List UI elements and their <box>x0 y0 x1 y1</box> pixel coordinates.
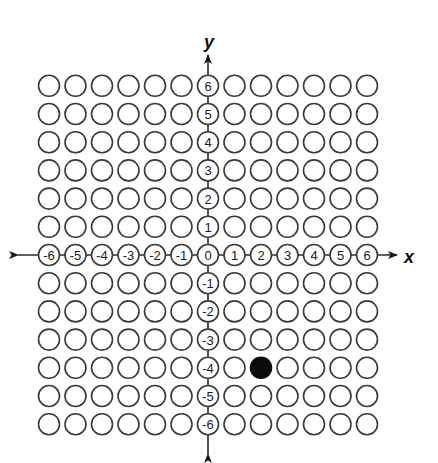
grid-point <box>65 188 86 209</box>
grid-point <box>145 188 166 209</box>
grid-point <box>224 132 245 153</box>
grid-point <box>39 132 60 153</box>
x-tick-label: -6 <box>43 248 55 263</box>
grid-point <box>251 301 272 322</box>
grid-point <box>145 357 166 378</box>
grid-point <box>251 104 272 125</box>
grid-point <box>304 160 325 181</box>
grid-point <box>277 301 298 322</box>
grid-point <box>330 160 351 181</box>
grid-point <box>304 75 325 96</box>
grid-point <box>304 386 325 407</box>
grid-point <box>171 75 192 96</box>
x-tick-label: 1 <box>231 248 238 263</box>
grid-point <box>118 357 139 378</box>
grid-point <box>330 75 351 96</box>
grid-point <box>39 216 60 237</box>
grid-point <box>118 160 139 181</box>
grid-point <box>92 75 113 96</box>
x-tick-label: 5 <box>337 248 344 263</box>
grid-point <box>92 357 113 378</box>
grid-point <box>39 75 60 96</box>
grid-point <box>357 75 378 96</box>
grid-point <box>304 329 325 350</box>
grid-point <box>145 75 166 96</box>
grid-point <box>92 188 113 209</box>
grid-point <box>39 273 60 294</box>
grid-point <box>330 132 351 153</box>
grid-point <box>357 301 378 322</box>
grid-point <box>251 273 272 294</box>
grid-point <box>145 414 166 435</box>
y-tick-label: 4 <box>204 135 211 150</box>
grid-point <box>251 160 272 181</box>
grid-point <box>65 357 86 378</box>
grid-point <box>277 273 298 294</box>
grid-point <box>171 273 192 294</box>
y-tick-label: 1 <box>204 220 211 235</box>
grid-point <box>145 301 166 322</box>
grid-point <box>171 301 192 322</box>
grid-point <box>330 357 351 378</box>
grid-point <box>92 386 113 407</box>
grid-point <box>145 104 166 125</box>
grid-point <box>330 329 351 350</box>
grid-point <box>145 273 166 294</box>
y-tick-label: -5 <box>202 389 214 404</box>
grid-point <box>224 75 245 96</box>
grid-point <box>330 188 351 209</box>
grid-point <box>171 188 192 209</box>
grid-point <box>251 386 272 407</box>
grid-point <box>224 273 245 294</box>
grid-point <box>304 357 325 378</box>
grid-point <box>357 414 378 435</box>
grid-point <box>330 273 351 294</box>
coordinate-grid: 654321-6-5-4-3-2-10123456-1-2-3-4-5-6 x … <box>0 0 438 463</box>
x-tick-label: 4 <box>310 248 317 263</box>
grid-point <box>330 104 351 125</box>
grid-point <box>277 414 298 435</box>
y-tick-label: -6 <box>202 417 214 432</box>
grid-point <box>357 132 378 153</box>
grid-point <box>65 329 86 350</box>
grid-point <box>304 188 325 209</box>
grid-point <box>224 188 245 209</box>
grid-point <box>357 329 378 350</box>
x-tick-label: 2 <box>257 248 264 263</box>
y-tick-label: -1 <box>202 276 214 291</box>
grid-point <box>92 273 113 294</box>
grid-point <box>330 414 351 435</box>
grid-point <box>171 386 192 407</box>
grid-point <box>118 329 139 350</box>
y-tick-label: 3 <box>204 163 211 178</box>
grid-point <box>251 188 272 209</box>
grid-point <box>171 132 192 153</box>
grid-point <box>251 329 272 350</box>
grid-point <box>277 386 298 407</box>
x-tick-label: 6 <box>363 248 370 263</box>
grid-point <box>277 357 298 378</box>
x-tick-label: -3 <box>123 248 135 263</box>
grid-point <box>39 414 60 435</box>
grid-point <box>224 104 245 125</box>
grid-point <box>277 160 298 181</box>
grid-point <box>277 104 298 125</box>
grid-point <box>251 216 272 237</box>
y-tick-label: -2 <box>202 304 214 319</box>
grid-point <box>145 386 166 407</box>
grid-point <box>304 132 325 153</box>
grid-point <box>224 216 245 237</box>
grid-point <box>118 301 139 322</box>
grid-point <box>118 273 139 294</box>
grid-point <box>251 75 272 96</box>
grid-point <box>145 216 166 237</box>
grid-point <box>39 329 60 350</box>
y-tick-label: 6 <box>204 79 211 94</box>
grid-point <box>224 414 245 435</box>
grid-point <box>277 132 298 153</box>
grid-point <box>92 301 113 322</box>
y-tick-label: -3 <box>202 333 214 348</box>
grid-point <box>65 132 86 153</box>
grid-point <box>92 104 113 125</box>
grid-point <box>39 160 60 181</box>
